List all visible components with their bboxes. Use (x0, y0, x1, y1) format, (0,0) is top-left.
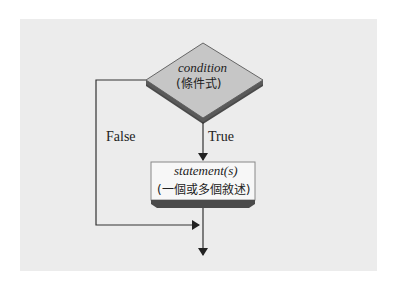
statement-label: statement(s) (174, 163, 238, 179)
statement-sublabel: (一個或多個敘述) (157, 180, 250, 197)
false-label: False (106, 129, 136, 145)
flowchart-graphic (0, 0, 398, 288)
true-label: True (208, 129, 234, 145)
condition-sublabel: (條件式) (176, 74, 221, 91)
